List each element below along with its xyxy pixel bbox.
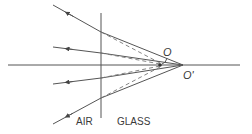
image-label: O' [183, 69, 195, 81]
refraction-diagram: O O' AIR GLASS [0, 0, 252, 134]
object-label: O [163, 46, 172, 58]
air-label: AIR [76, 116, 93, 127]
glass-label: GLASS [117, 116, 151, 127]
ray-3 [53, 65, 183, 84]
object-label-leader [162, 58, 167, 64]
object-point [158, 63, 162, 67]
